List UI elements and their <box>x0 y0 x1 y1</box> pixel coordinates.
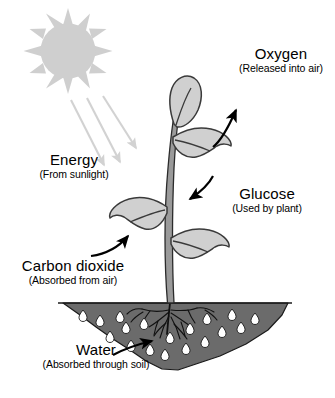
label-energy-title: Energy <box>18 152 130 168</box>
label-water-sub: (Absorbed through soil) <box>28 359 164 370</box>
leaf-lower-left <box>110 197 167 229</box>
label-carbon-dioxide-sub: (Absorbed from air) <box>2 275 144 286</box>
label-oxygen-title: Oxygen <box>228 46 334 62</box>
sun-disc <box>41 24 96 79</box>
label-carbon-dioxide: Carbon dioxide (Absorbed from air) <box>2 258 144 286</box>
label-glucose: Glucose (Used by plant) <box>208 186 326 214</box>
leaf-lower-right <box>171 229 229 258</box>
photosynthesis-diagram: Oxygen (Released into air) Energy (From … <box>0 0 335 398</box>
leaf-upper-right <box>173 128 231 157</box>
label-energy: Energy (From sunlight) <box>18 152 130 180</box>
leaf-top <box>170 76 202 127</box>
co2-arrow-icon <box>91 236 128 256</box>
label-water: Water (Absorbed through soil) <box>28 342 164 370</box>
label-energy-sub: (From sunlight) <box>18 169 130 180</box>
sun-icon <box>24 8 113 94</box>
label-glucose-sub: (Used by plant) <box>208 203 326 214</box>
label-water-title: Water <box>28 342 164 358</box>
label-glucose-title: Glucose <box>208 186 326 202</box>
label-carbon-dioxide-title: Carbon dioxide <box>2 258 144 274</box>
label-oxygen-sub: (Released into air) <box>228 63 334 74</box>
label-oxygen: Oxygen (Released into air) <box>228 46 334 74</box>
